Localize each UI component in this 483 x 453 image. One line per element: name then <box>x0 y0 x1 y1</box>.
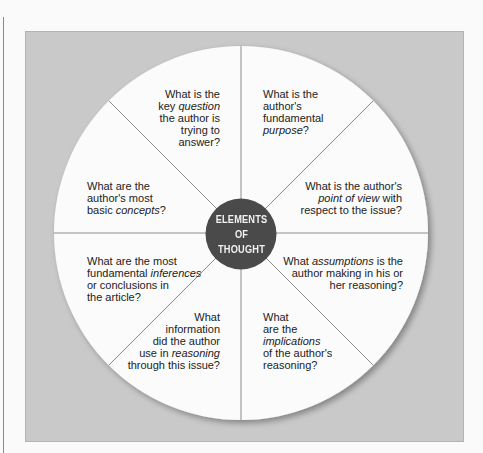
segment-text-line: point of view with <box>300 192 402 204</box>
segment-text-line: the author is <box>158 112 220 124</box>
segment-text-line: What are the <box>87 180 166 192</box>
segment-text-line: What is the <box>158 88 220 100</box>
text-span: use in <box>139 347 171 359</box>
emphasis-term: purpose <box>263 124 303 136</box>
text-span: ? <box>160 204 166 216</box>
segment-text-line: information <box>128 323 220 335</box>
segment-text-line: answer? <box>158 136 220 148</box>
segment-text-line: fundamental <box>263 112 324 124</box>
segment-text-line: What assumptions is the <box>283 255 403 267</box>
segment-text-line: What is the author's <box>300 180 402 192</box>
segment-information: What information did the author use in r… <box>128 311 220 371</box>
segment-text-line: implications <box>263 335 332 347</box>
text-span: with <box>379 192 402 204</box>
segment-question: What is the key question the author is t… <box>158 88 220 148</box>
emphasis-term: question <box>178 100 220 112</box>
center-label: ELEMENTS OF THOUGHT <box>210 199 272 269</box>
segment-point-of-view: What is the author's point of view with … <box>300 180 402 216</box>
segment-text-line: fundamental inferences <box>87 267 201 279</box>
segment-text-line: What are the most <box>87 255 201 267</box>
center-label-line: OF <box>235 227 248 242</box>
segment-text-line: What is the <box>263 88 324 100</box>
emphasis-term: concepts <box>116 204 160 216</box>
segment-text-line: are the <box>263 323 332 335</box>
segment-text-line: through this issue? <box>128 359 220 371</box>
emphasis-term: inferences <box>151 267 202 279</box>
text-span: basic <box>87 204 116 216</box>
segment-purpose: What is the author's fundamental purpose… <box>263 88 324 136</box>
emphasis-term: reasoning <box>172 347 220 359</box>
segment-assumptions: What assumptions is the author making in… <box>283 255 403 291</box>
segment-text-line: author's <box>263 100 324 112</box>
segment-text-line: her reasoning? <box>283 279 403 291</box>
segment-text-line: trying to <box>158 124 220 136</box>
segment-text-line: use in reasoning <box>128 347 220 359</box>
segment-text-line: respect to the issue? <box>300 204 402 216</box>
text-span: key <box>158 100 178 112</box>
segment-text-line: the article? <box>87 291 201 303</box>
text-span: is the <box>374 255 403 267</box>
segment-text-line: basic concepts? <box>87 204 166 216</box>
segment-text-line: author's most <box>87 192 166 204</box>
segment-concepts: What are the author's most basic concept… <box>87 180 166 216</box>
segment-text-line: key question <box>158 100 220 112</box>
text-span: ? <box>303 124 309 136</box>
segment-text-line: or conclusions in <box>87 279 201 291</box>
segment-text-line: did the author <box>128 335 220 347</box>
emphasis-term: point of view <box>318 192 379 204</box>
emphasis-term: assumptions <box>312 255 374 267</box>
segment-text-line: purpose? <box>263 124 324 136</box>
segment-text-line: of the author's <box>263 347 332 359</box>
center-label-line: ELEMENTS <box>216 212 268 227</box>
emphasis-term: implications <box>263 335 320 347</box>
center-label-line: THOUGHT <box>218 242 265 257</box>
segment-text-line: What <box>128 311 220 323</box>
text-span: fundamental <box>87 267 151 279</box>
segment-text-line: What <box>263 311 332 323</box>
segment-implications: What are the implications of the author'… <box>263 311 332 371</box>
segment-text-line: author making in his or <box>283 267 403 279</box>
segment-inferences: What are the most fundamental inferences… <box>87 255 201 303</box>
text-span: What <box>283 255 312 267</box>
segment-text-line: reasoning? <box>263 359 332 371</box>
